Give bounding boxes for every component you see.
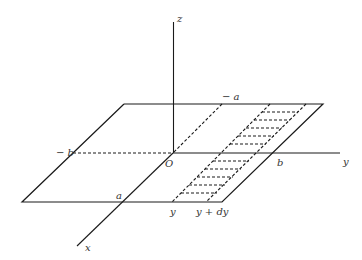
x-axis-label: x	[85, 242, 91, 253]
y-axis-label: y	[342, 156, 349, 167]
negative-x-axis-dashed	[173, 104, 222, 153]
a-label: a	[116, 190, 122, 201]
neg-b-label: − b	[56, 147, 74, 158]
z-axis-label: z	[176, 13, 183, 24]
origin-label: O	[165, 158, 173, 169]
y-dy-point-label: y + dy	[195, 206, 229, 217]
y-point-label: y	[169, 206, 176, 217]
x-axis	[77, 153, 173, 246]
b-label: b	[277, 157, 283, 168]
coordinate-diagram: z y x O − a − b a b y y + dy	[0, 0, 362, 260]
neg-a-label: − a	[222, 91, 240, 102]
